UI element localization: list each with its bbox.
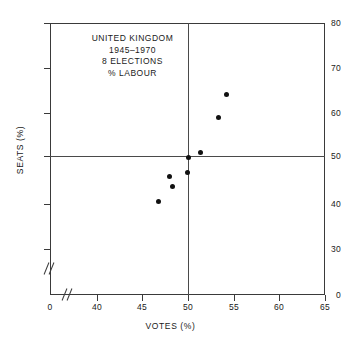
- y-tick-70: [44, 68, 50, 69]
- y-axis-break-icon: [44, 262, 58, 278]
- y-tick-label-30: 30: [299, 245, 341, 254]
- y-tick-label-80: 80: [299, 19, 341, 28]
- x-tick-label-40: 40: [82, 303, 112, 312]
- data-point: [167, 174, 172, 179]
- y-tick-60: [44, 113, 50, 114]
- y-tick-80: [44, 23, 50, 24]
- y-tick-label-0: 0: [299, 291, 341, 300]
- x-tick-40: [97, 295, 98, 301]
- x-tick-label-60: 60: [264, 303, 294, 312]
- y-tick-50: [44, 156, 50, 157]
- chart-annotation-block: UNITED KINGDOM 1945–1970 8 ELECTIONS % L…: [60, 33, 205, 79]
- data-point: [186, 155, 191, 160]
- data-point: [185, 170, 190, 175]
- data-point: [170, 184, 175, 189]
- x-tick-50: [188, 295, 189, 301]
- y-tick-label-60: 60: [299, 109, 341, 118]
- y-tick-30: [44, 249, 50, 250]
- x-tick-label-45: 45: [127, 303, 157, 312]
- annotation-line-years: 1945–1970: [60, 45, 205, 57]
- annotation-line-party: % LABOUR: [60, 68, 205, 80]
- data-point: [216, 115, 221, 120]
- x-tick-label-50: 50: [173, 303, 203, 312]
- x-tick-label-65: 65: [310, 303, 340, 312]
- data-point: [198, 150, 203, 155]
- x-tick-label-0: 0: [35, 303, 65, 312]
- x-tick-60: [279, 295, 280, 301]
- y-tick-label-70: 70: [299, 64, 341, 73]
- y-tick-label-40: 40: [299, 200, 341, 209]
- x-tick-65: [325, 295, 326, 301]
- annotation-line-country: UNITED KINGDOM: [60, 33, 205, 45]
- data-point: [224, 92, 229, 97]
- y-axis-title: SEATS (%): [15, 110, 25, 190]
- x-axis-break-icon: [62, 288, 78, 304]
- x-axis-title: VOTES (%): [0, 321, 341, 331]
- y-tick-40: [44, 204, 50, 205]
- x-tick-label-55: 55: [219, 303, 249, 312]
- annotation-line-elections: 8 ELECTIONS: [60, 56, 205, 68]
- scatter-plot-figure: 80 70 60 50 40 30 0 0 40 45 50 55 60 65 …: [0, 0, 341, 340]
- x-tick-55: [234, 295, 235, 301]
- data-point: [156, 199, 161, 204]
- y-tick-label-50: 50: [299, 152, 341, 161]
- x-tick-45: [142, 295, 143, 301]
